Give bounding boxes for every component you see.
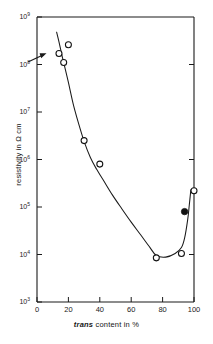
y-axis-title: resistivity in Ω cm [14,85,23,225]
trend-curve [57,32,191,257]
y-tick-label-1e4: 104 [6,251,30,258]
x-axis-title: trans content in % [0,320,213,329]
data-point-open [178,250,184,256]
resistivity-vs-trans-content-chart [0,0,213,344]
data-point-open [56,51,62,57]
data-point-open [97,161,103,167]
data-point-open [81,138,87,144]
y-axis-ticks-right [189,65,194,255]
x-axis-title-rest: content in % [93,320,139,329]
x-tick-label-40: 40 [90,306,110,314]
data-point-open [61,60,67,66]
x-axis-title-italic-part: trans [74,320,93,329]
data-point-filled [181,208,187,214]
y-axis-ticks [37,17,42,302]
y-tick-label-1e3: 103 [6,298,30,305]
data-markers-layer [56,42,197,261]
x-tick-label-20: 20 [58,306,78,314]
caption-partial [8,334,208,343]
x-tick-label-60: 60 [121,306,141,314]
x-axis-ticks [37,297,194,302]
x-tick-label-0: 0 [27,306,47,314]
axis-frame [37,17,194,302]
y-tick-label-1e8: 108 [6,61,30,68]
data-point-open [191,188,197,194]
figure-container: 109 108 107 106 105 104 103 0 20 40 60 8… [0,0,213,344]
x-tick-label-100: 100 [183,306,205,314]
data-point-open [153,255,159,261]
x-tick-label-80: 80 [153,306,173,314]
data-point-open [65,42,71,48]
y-tick-label-1e9: 109 [6,13,30,20]
